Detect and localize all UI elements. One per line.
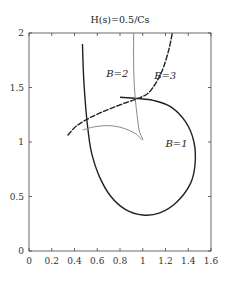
x-tick-label: 1 bbox=[140, 256, 146, 266]
curve-labels: B=1B=2B=3 bbox=[105, 68, 187, 150]
annotation-label: B=3 bbox=[153, 70, 176, 81]
x-tick-label: 0 bbox=[26, 256, 32, 266]
x-tick-label: 1.2 bbox=[158, 256, 172, 266]
y-tick-label: 1 bbox=[18, 137, 24, 147]
y-tick-label: 0 bbox=[18, 246, 24, 256]
x-tick-label: 1.6 bbox=[204, 256, 219, 266]
plot-curves bbox=[68, 33, 196, 215]
y-tick-label: 2 bbox=[18, 28, 24, 38]
chart: H(s)=0.5/Cs 00.20.40.60.811.21.41.6 00.5… bbox=[0, 0, 230, 281]
y-tick-label: 1.5 bbox=[10, 83, 25, 93]
x-tick-label: 0.8 bbox=[113, 256, 128, 266]
annotation-label: B=1 bbox=[165, 138, 188, 149]
x-tick-label: 0.4 bbox=[67, 256, 82, 266]
curve-b2 bbox=[82, 33, 142, 140]
annotation-label: B=2 bbox=[105, 68, 128, 79]
x-tick-label: 0.2 bbox=[45, 256, 59, 266]
x-tick-label: 0.6 bbox=[90, 256, 105, 266]
y-tick-label: 0.5 bbox=[10, 192, 25, 202]
chart-title: H(s)=0.5/Cs bbox=[91, 14, 150, 25]
x-tick-label: 1.4 bbox=[181, 256, 196, 266]
